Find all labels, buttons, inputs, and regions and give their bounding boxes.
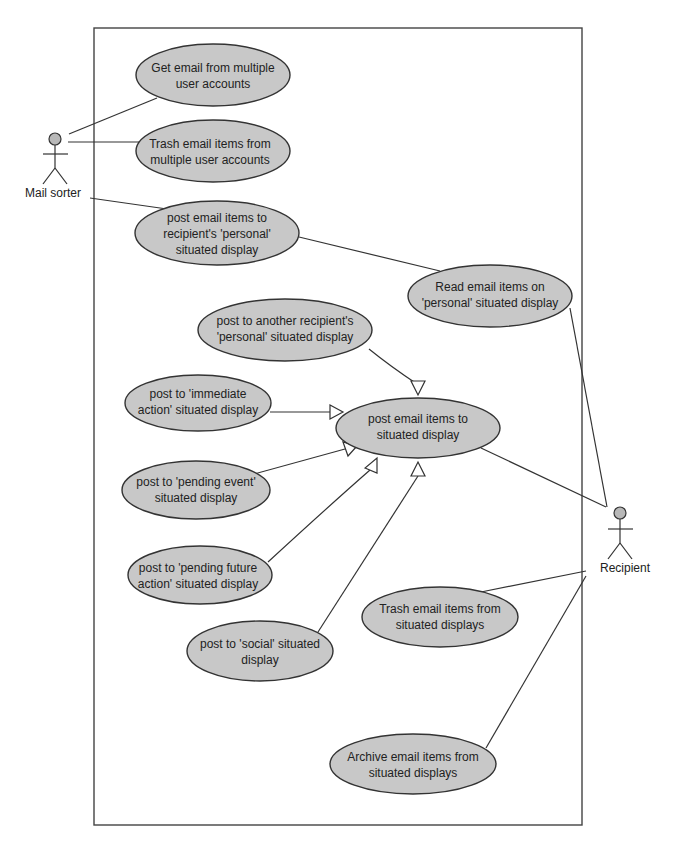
use-case-ellipse <box>122 461 270 519</box>
actor-leg-left-icon <box>608 543 620 559</box>
use-case-label: situated display <box>377 428 460 442</box>
generalizations <box>254 349 425 632</box>
use-case-label: action' situated display <box>138 577 258 591</box>
use-case-post-immediate[interactable]: post to 'immediate action' situated disp… <box>125 375 271 431</box>
use-case-label: post email items to <box>167 211 267 225</box>
use-case-label: action' situated display <box>138 403 258 417</box>
actor-head-icon <box>614 507 626 519</box>
use-case-ellipse <box>128 546 272 604</box>
use-case-label: situated display <box>176 243 259 257</box>
use-case-trash-situated[interactable]: Trash email items from situated displays <box>362 587 518 647</box>
actor-leg-right-icon <box>620 543 632 559</box>
gen-line-post-pending-event <box>254 449 345 474</box>
gen-arrow-post-another <box>411 381 425 395</box>
use-case-diagram: Get email from multiple user accounts Tr… <box>0 0 677 857</box>
actor-label: Mail sorter <box>25 186 81 200</box>
actor-mail-sorter[interactable]: Mail sorter <box>25 133 81 200</box>
actor-head-icon <box>49 133 61 145</box>
use-case-trash-multiple[interactable]: Trash email items from multiple user acc… <box>136 120 290 182</box>
use-case-label: multiple user accounts <box>150 153 269 167</box>
use-case-label: situated displays <box>369 766 458 780</box>
use-case-ellipse <box>330 734 496 794</box>
use-case-label: post to 'pending future <box>139 561 258 575</box>
assoc-post-personal-read-personal <box>299 237 440 271</box>
use-case-label: Trash email items from <box>379 602 501 616</box>
use-case-label: user accounts <box>176 77 251 91</box>
use-case-post-social[interactable]: post to 'social' situated display <box>187 621 333 681</box>
actor-label: Recipient <box>600 561 651 575</box>
use-case-label: Read email items on <box>435 280 544 294</box>
use-case-archive-situated[interactable]: Archive email items from situated displa… <box>330 734 496 794</box>
use-case-label: Trash email items from <box>149 137 271 151</box>
actor-leg-left-icon <box>43 168 55 184</box>
use-case-label: situated displays <box>396 618 485 632</box>
assoc-recipient-read-personal <box>570 308 607 507</box>
use-case-label: post to 'immediate <box>149 387 246 401</box>
gen-arrow-post-social <box>411 462 425 476</box>
use-case-label: recipient's 'personal' <box>163 227 271 241</box>
use-case-post-situated[interactable]: post email items to situated display <box>336 398 500 458</box>
use-case-read-personal[interactable]: Read email items on 'personal' situated … <box>408 265 572 327</box>
use-case-label: post email items to <box>368 412 468 426</box>
use-case-label: display <box>241 653 278 667</box>
use-case-get-email[interactable]: Get email from multiple user accounts <box>136 44 290 106</box>
assoc-mailsorter-get-email <box>69 98 157 134</box>
use-case-ellipse <box>136 44 290 106</box>
use-case-post-pending-event[interactable]: post to 'pending event' situated display <box>122 461 270 519</box>
assoc-recipient-post-situated <box>481 448 606 507</box>
gen-arrow-post-pending-future <box>365 458 377 473</box>
use-case-label: post to another recipient's <box>216 314 353 328</box>
gen-line-post-pending-future <box>268 470 370 562</box>
actor-leg-right-icon <box>55 168 67 184</box>
use-case-label: post to 'pending event' <box>136 475 255 489</box>
use-case-label: 'personal' situated display <box>422 296 559 310</box>
gen-line-post-another <box>369 349 417 384</box>
actor-recipient[interactable]: Recipient <box>600 507 651 575</box>
use-case-post-personal[interactable]: post email items to recipient's 'persona… <box>135 201 299 265</box>
use-case-label: Get email from multiple <box>151 61 275 75</box>
use-case-label: 'personal' situated display <box>217 330 354 344</box>
use-case-post-another[interactable]: post to another recipient's 'personal' s… <box>198 299 372 361</box>
use-case-label: post to 'social' situated <box>200 637 320 651</box>
use-case-ellipse <box>136 120 290 182</box>
use-case-post-pending-future[interactable]: post to 'pending future action' situated… <box>128 546 272 604</box>
use-case-ellipse <box>187 621 333 681</box>
assoc-mailsorter-post-personal <box>90 198 167 209</box>
use-case-label: situated display <box>155 491 238 505</box>
use-case-ellipse <box>362 587 518 647</box>
use-case-label: Archive email items from <box>347 750 478 764</box>
assoc-recipient-trash-situated <box>481 571 586 592</box>
